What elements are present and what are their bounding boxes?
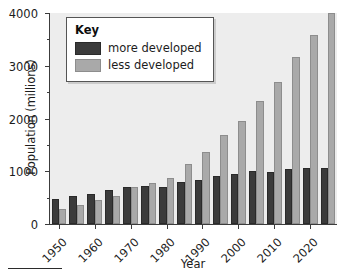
population-bar-chart-figure: Population (millions) 01000200030004000 … [0,0,339,277]
bar-2025-more-developed [321,168,328,224]
legend-swatch-more-developed [75,42,101,55]
y-tick-label-1000: 1000 [9,165,38,179]
bar-2015-more-developed [285,169,292,224]
y-tick-0: 0 [45,224,50,225]
bar-1980-more-developed [159,187,166,224]
y-minor-tick-1500 [47,145,51,146]
legend-title: Key [75,23,206,37]
bar-1955-less-developed [77,205,84,224]
x-tick-2000: 2000 [238,224,239,229]
y-tick-2000: 2000 [45,119,50,120]
bar-1970-less-developed [131,187,138,224]
bar-1990-more-developed [195,180,202,224]
y-minor-tick-500 [47,198,51,199]
y-tick-1000: 1000 [45,171,50,172]
y-tick-label-2000: 2000 [9,113,38,127]
bar-2005-less-developed [256,101,263,224]
bar-1975-less-developed [149,183,156,224]
bar-2010-more-developed [267,172,274,224]
x-axis-title: Year [49,257,337,271]
x-tick-1970: 1970 [131,224,132,229]
y-minor-tick-3500 [47,39,51,40]
bar-1985-more-developed [177,182,184,224]
bar-1965-more-developed [105,190,112,224]
bar-2005-more-developed [249,171,256,224]
y-tick-4000: 4000 [45,13,50,14]
legend-label-less-developed: less developed [108,58,194,72]
chart-legend: Key more developed less developed [66,17,214,82]
y-tick-3000: 3000 [45,66,50,67]
bar-2020-less-developed [310,35,317,224]
bar-2000-less-developed [238,121,245,224]
bar-1990-less-developed [202,152,209,224]
x-tick-1950: 1950 [59,224,60,229]
bar-1960-less-developed [95,200,102,224]
legend-item-less-developed: less developed [75,58,206,72]
bar-1950-more-developed [52,199,59,224]
y-tick-label-3000: 3000 [9,60,38,74]
x-tick-1960: 1960 [95,224,96,229]
bar-2015-less-developed [292,57,299,224]
legend-swatch-less-developed [75,59,101,72]
bar-2000-more-developed [231,174,238,224]
bar-1975-more-developed [141,186,148,224]
bar-2020-more-developed [303,168,310,224]
bar-1960-more-developed [87,194,94,224]
bar-1985-less-developed [185,164,192,224]
bar-1970-more-developed [123,187,130,224]
legend-label-more-developed: more developed [108,41,202,55]
bar-1980-less-developed [167,178,174,224]
x-tick-2020: 2020 [310,224,311,229]
bar-1955-more-developed [69,196,76,224]
x-tick-1990: 1990 [202,224,203,229]
bar-2010-less-developed [274,82,281,224]
bar-1995-more-developed [213,176,220,224]
y-minor-tick-2500 [47,92,51,93]
legend-item-more-developed: more developed [75,41,206,55]
bar-1995-less-developed [220,135,227,224]
bottom-rule-divider [8,268,62,269]
bar-1950-less-developed [59,209,66,224]
x-tick-1980: 1980 [167,224,168,229]
y-tick-label-4000: 4000 [9,7,38,21]
y-tick-label-0: 0 [31,218,38,232]
bar-2025-less-developed [328,13,335,224]
x-tick-2010: 2010 [274,224,275,229]
bar-1965-less-developed [113,196,120,224]
